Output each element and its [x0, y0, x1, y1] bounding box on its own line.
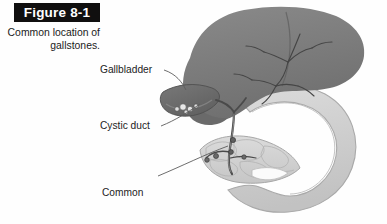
figure-number: Figure 8-1	[24, 5, 91, 20]
figure-caption: Common location of gallstones.	[0, 26, 100, 52]
caption-line-1: Common location of	[0, 26, 100, 39]
label-cystic-duct: Cystic duct	[100, 120, 150, 133]
label-common-bile-duct-line-1: Common	[102, 187, 143, 200]
figure-panel: Figure 8-1 Common location of gallstones…	[0, 0, 387, 224]
figure-banner: Figure 8-1	[14, 3, 100, 22]
label-gallbladder: Gallbladder	[100, 64, 152, 77]
caption-line-2: gallstones.	[0, 39, 100, 52]
label-common-bile-duct: Common bile duct	[102, 162, 143, 224]
